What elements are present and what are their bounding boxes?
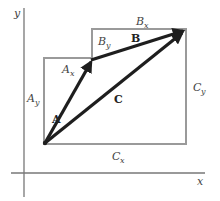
svg-text:x: x: [120, 156, 125, 165]
svg-text:y: y: [34, 98, 40, 107]
vector-C-label: C: [114, 93, 123, 106]
y-axis-label: y: [13, 7, 21, 20]
svg-text:A: A: [26, 92, 35, 105]
svg-text:y: y: [105, 41, 111, 50]
vector-A-label: A: [51, 113, 61, 126]
vector-B-label: B: [131, 32, 140, 45]
vector-diagram: y x A B C A x A y B x B y C x C y: [0, 0, 220, 201]
x-axis-label: x: [197, 175, 204, 188]
label-Cy: C y: [193, 81, 206, 96]
vector-C: [45, 33, 182, 143]
svg-text:B: B: [135, 15, 144, 28]
label-Ay: A y: [26, 92, 40, 107]
label-Ax: A x: [61, 63, 75, 78]
svg-text:y: y: [200, 87, 206, 96]
label-Bx: B x: [135, 15, 149, 30]
svg-text:A: A: [61, 63, 70, 76]
svg-text:x: x: [70, 69, 75, 78]
origin-point: [43, 141, 47, 145]
svg-text:B: B: [97, 35, 106, 48]
svg-text:x: x: [144, 21, 149, 30]
label-Cx: C x: [112, 150, 125, 165]
label-By: B y: [97, 35, 111, 50]
